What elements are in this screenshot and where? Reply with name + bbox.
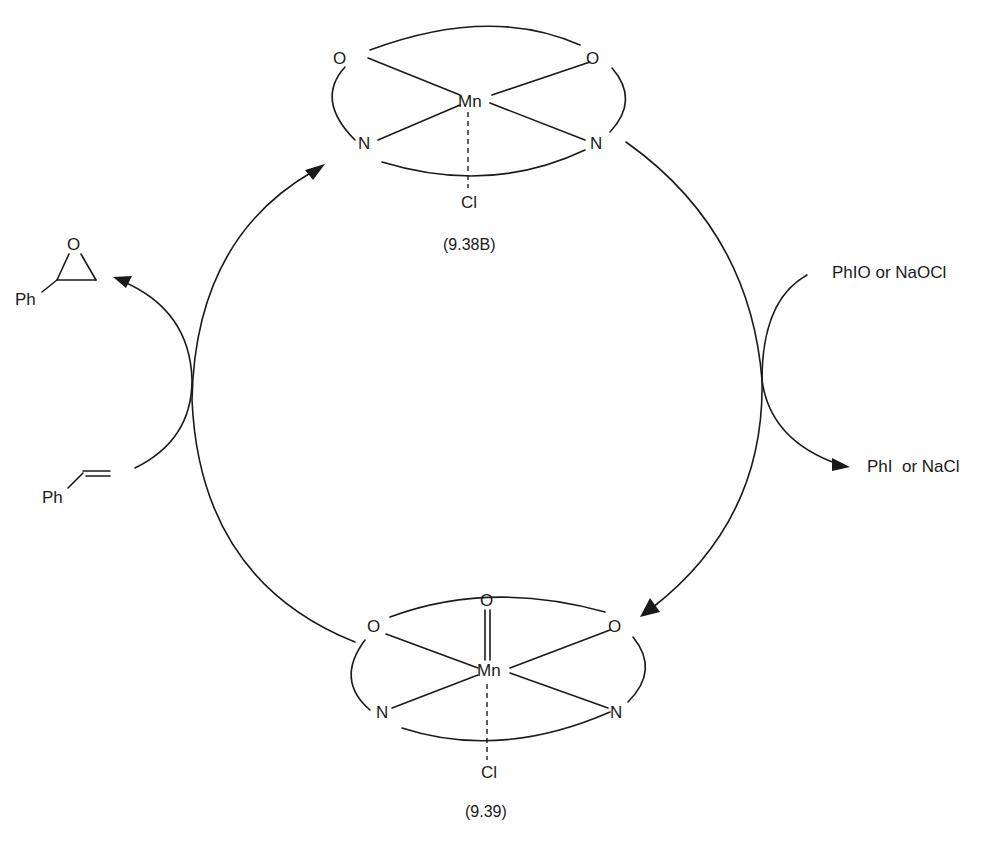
epoxide-bond-ph [42,280,57,292]
ligand-ring-left-arc [351,640,370,710]
complex-9-38b: O O N N Mn Cl (9.38B) [332,26,625,253]
epoxide-bond-c-o-left [57,254,69,280]
styrene-bond-ph [68,473,83,488]
atom-n-right: N [590,134,602,153]
atom-n-left: N [358,134,370,153]
compound-label-9-38b: (9.38B) [443,236,495,253]
compound-label-9-39: (9.39) [465,803,507,820]
atom-oxo: O [480,591,493,610]
styrene-phenyl: Ph [42,488,63,507]
complex-9-39: O O O N N Mn Cl (9.39) [351,591,645,820]
cycle-arc-right [626,142,762,608]
bond-o-right-mn [492,62,590,95]
atom-o-right: O [608,617,621,636]
atom-n-right: N [610,703,622,722]
atom-n-left: N [376,703,388,722]
ligand-ring-top-arc [390,597,605,617]
ligand-ring-bottom-arc [382,150,585,176]
catalytic-cycle-diagram: O O N N Mn Cl (9.38B) O O O N N Mn Cl (9… [0,0,998,849]
atom-o-right: O [586,49,599,68]
atom-mn: Mn [477,661,501,680]
ligand-ring-right-arc [628,637,645,702]
epoxide-bond-o-c-right [81,254,96,280]
atom-o-left: O [367,617,380,636]
arrowhead-left-cycle [305,164,325,180]
epoxide-phenyl: Ph [15,290,36,309]
styrene-structure: Ph [42,471,110,507]
bond-n-left-mn [378,105,460,140]
arrowhead-epoxidation [113,276,132,288]
epoxidation-arrow [122,281,192,468]
ligand-ring-right-arc [610,68,626,132]
epoxide-structure: O Ph [15,235,96,309]
left-substrate-product: O Ph Ph [15,235,192,507]
ligand-ring-left-arc [332,67,355,140]
arrowhead-oxidant [832,458,850,471]
atom-mn: Mn [458,92,482,111]
atom-cl: Cl [461,193,477,212]
oxidant-arrow [762,275,838,464]
bond-o-right-mn [510,630,610,668]
oxidant-label: PhIO or NaOCl [832,263,946,282]
ligand-ring-bottom-arc [402,712,610,741]
epoxide-ring-oxygen: O [67,235,80,254]
atom-o-left: O [333,49,346,68]
right-oxidant-byproduct: PhIO or NaOCl PhI or NaCl [762,263,960,476]
bond-o-left-mn [368,58,460,95]
atom-cl: Cl [481,763,497,782]
byproduct-label: PhI or NaCl [867,457,960,476]
bond-n-right-mn [510,673,608,708]
bond-n-right-mn [490,103,585,140]
arrowhead-right-cycle [640,598,660,617]
ligand-ring-top-arc [370,26,580,50]
bond-n-left-mn [392,675,478,708]
bond-o-left-mn [386,634,478,668]
cycle-arc-left [192,172,355,642]
